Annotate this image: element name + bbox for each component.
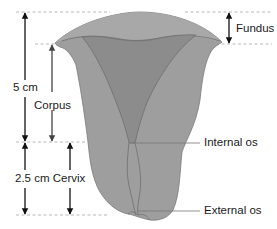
cervix-label: 2.5 cm Cervix (15, 173, 85, 185)
length-label: 5 cm (13, 82, 38, 94)
external-os-label: External os (204, 205, 262, 217)
internal-os-label: Internal os (204, 137, 258, 149)
corpus-label: Corpus (34, 100, 71, 112)
fundus-label: Fundus (236, 23, 274, 35)
uterus-diagram: Fundus 5 cm Corpus 2.5 cm Cervix Interna… (0, 0, 277, 229)
